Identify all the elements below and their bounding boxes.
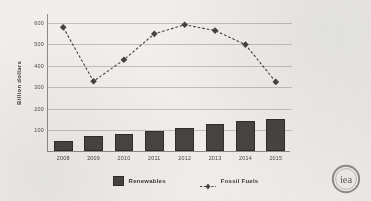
data-point-2008: Fossil Fuels 2008: 578 (60, 24, 67, 31)
chart-legend: Renewables Fossil Fuels (0, 176, 371, 186)
line-series-fossil-fuels: Fossil Fuels 2008: 578Fossil Fuels 2009:… (48, 14, 290, 151)
y-axis-tick-label-300: 300 (34, 84, 44, 90)
x-axis-tick-label-2014: 2014 (239, 155, 252, 161)
x-axis-tick-label-2012: 2012 (178, 155, 191, 161)
y-axis-tick-label-500: 500 (34, 41, 44, 47)
y-axis-tick-label-600: 600 (34, 20, 44, 26)
legend-label-fossil-fuels: Fossil Fuels (221, 178, 259, 184)
x-axis-tick-label-2011: 2011 (148, 155, 160, 161)
dashed-line-diamond-icon (200, 177, 216, 186)
data-point-2012: Fossil Fuels 2012: 590 (181, 21, 188, 28)
legend-item-fossil-fuels[interactable]: Fossil Fuels (200, 177, 259, 186)
plot-area: 100200300400500600 Fossil Fuels 2008: 57… (47, 14, 290, 152)
fossil-fuels-line-path: Fossil Fuels 2008: 578Fossil Fuels 2009:… (48, 14, 291, 152)
y-axis-title-label: Billion dollars (17, 61, 23, 105)
legend-item-renewables[interactable]: Renewables (113, 176, 166, 186)
y-axis-title: Billion dollars (14, 14, 25, 152)
svg-text:iea: iea (340, 174, 353, 185)
y-axis-tick-label-200: 200 (34, 106, 44, 112)
y-axis-tick-label-100: 100 (34, 127, 44, 133)
x-axis-tick-label-2010: 2010 (118, 155, 131, 161)
bar-swatch-icon (113, 176, 124, 186)
data-point-2014: Fossil Fuels 2014: 498 (242, 41, 249, 48)
y-axis-tick-label-400: 400 (34, 63, 44, 69)
legend-label-renewables: Renewables (129, 178, 166, 184)
x-axis-tick-label-2008: 2008 (57, 155, 70, 161)
x-axis-tick-label-2015: 2015 (269, 155, 282, 161)
iea-logo: iea (328, 161, 364, 197)
data-point-2013: Fossil Fuels 2013: 563 (212, 27, 219, 34)
data-point-2015: Fossil Fuels 2015: 325 (273, 79, 280, 86)
x-axis-tick-label-2009: 2009 (87, 155, 100, 161)
chart-root: Billion dollars 100200300400500600 Fossi… (0, 0, 371, 201)
x-axis-tick-label-2013: 2013 (209, 155, 222, 161)
